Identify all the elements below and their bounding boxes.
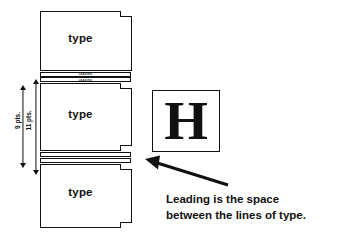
type-size-dimension-label: 9 pts. bbox=[14, 112, 21, 129]
caption-line-1: Leading is the space bbox=[166, 192, 306, 208]
bottom-slug-tab-seam bbox=[118, 170, 121, 221]
middle-slug-shoulder-tab bbox=[120, 88, 132, 146]
letter-h-glyph: H bbox=[164, 97, 208, 145]
leading-strip-upper-2: LEADING bbox=[40, 77, 131, 82]
bottom-slug-shoulder-tab bbox=[120, 169, 132, 223]
top-slug-tab-seam bbox=[118, 17, 121, 69]
top-slug-shoulder-tab bbox=[120, 16, 132, 71]
type-size-arrowhead-bottom bbox=[20, 163, 26, 168]
letter-specimen-box: H bbox=[152, 90, 220, 152]
bottom-slug: type bbox=[40, 164, 121, 228]
caption-text: Leading is the space between the lines o… bbox=[166, 192, 306, 223]
leading-diagram-canvas: type LEADING LEADING type type 9 pts. bbox=[0, 0, 358, 244]
leading-strip-lower-1 bbox=[40, 152, 131, 157]
middle-slug-label: type bbox=[40, 108, 121, 120]
leading-strip-lower-2 bbox=[40, 158, 131, 163]
leading-strip-upper-2-text: LEADING bbox=[41, 79, 130, 82]
leading-size-dimension-label: 11 pts. bbox=[25, 110, 32, 130]
top-slug: type bbox=[40, 11, 121, 71]
leading-size-arrowhead-bottom bbox=[33, 170, 39, 175]
caption-line-2: between the lines of type. bbox=[166, 208, 306, 224]
bottom-slug-label: type bbox=[40, 186, 121, 198]
leading-size-dimension-line bbox=[35, 82, 36, 172]
middle-slug-tab-seam bbox=[118, 89, 121, 144]
leading-strip-upper-1-text: LEADING bbox=[41, 73, 130, 76]
top-slug-label: type bbox=[40, 32, 121, 44]
leading-strip-upper-1: LEADING bbox=[40, 72, 131, 77]
type-size-dimension-line bbox=[22, 88, 23, 165]
leading-size-dimension bbox=[32, 79, 40, 175]
middle-slug: type bbox=[40, 83, 121, 151]
